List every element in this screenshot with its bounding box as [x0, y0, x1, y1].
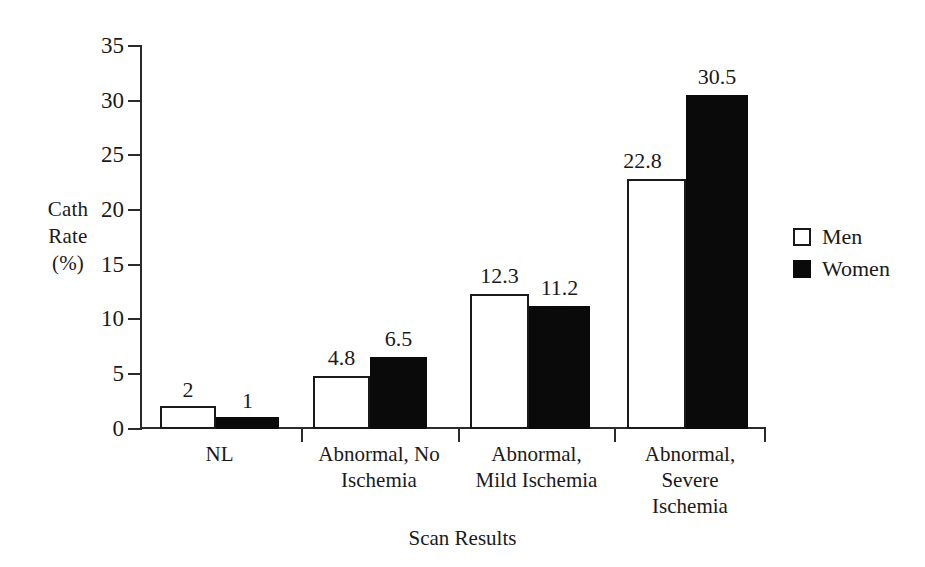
bar-men-abnormal-severe-ischemia[interactable] [627, 179, 686, 429]
x-group-label-abnormal-no-ischemia-line-2: Ischemia [300, 467, 458, 493]
bar-value-men-abnormal-severe-ischemia: 22.8 [613, 150, 672, 172]
x-group-label-nl: NL [152, 441, 287, 467]
y-tick-0 [128, 428, 142, 430]
y-tick-label-0: 0 [70, 417, 124, 440]
x-group-label-abnormal-severe-ischemia-line-3: Ischemia [614, 493, 766, 519]
x-group-label-abnormal-mild-ischemia-line-2: Mild Ischemia [458, 467, 615, 493]
y-tick-label-15: 15 [70, 253, 124, 276]
bar-value-men-abnormal-mild-ischemia: 12.3 [470, 265, 529, 287]
y-tick-10 [128, 318, 142, 320]
bar-women-abnormal-mild-ischemia[interactable] [529, 306, 590, 429]
y-tick-20 [128, 209, 142, 211]
x-axis-title: Scan Results [0, 526, 925, 551]
y-tick-label-5: 5 [70, 362, 124, 385]
filled-square-swatch-icon [793, 260, 811, 278]
bar-women-abnormal-no-ischemia[interactable] [370, 357, 427, 429]
legend-item-women[interactable]: Women [793, 253, 890, 285]
open-square-swatch-icon [793, 228, 811, 246]
x-group-label-abnormal-mild-ischemia-line-1: Abnormal, [458, 441, 615, 467]
bar-value-men-abnormal-no-ischemia: 4.8 [313, 347, 370, 369]
y-axis-title-line-2: Rate [30, 223, 106, 250]
bar-men-abnormal-mild-ischemia[interactable] [470, 294, 529, 429]
bar-women-nl[interactable] [216, 417, 279, 429]
bar-value-women-abnormal-severe-ischemia: 30.5 [686, 66, 748, 88]
legend-label-women: Women [822, 258, 890, 280]
bar-value-men-nl: 2 [160, 379, 216, 401]
bar-men-abnormal-no-ischemia[interactable] [313, 376, 370, 429]
y-tick-label-20: 20 [70, 198, 124, 221]
bar-value-women-abnormal-no-ischemia: 6.5 [370, 328, 427, 350]
y-tick-label-25: 25 [70, 143, 124, 166]
y-tick-label-30: 30 [70, 89, 124, 112]
x-group-label-abnormal-severe-ischemia-line-2: Severe [614, 467, 766, 493]
legend-item-men[interactable]: Men [793, 221, 890, 253]
y-tick-5 [128, 373, 142, 375]
bar-value-women-abnormal-mild-ischemia: 11.2 [529, 277, 590, 299]
x-tick-separator-2 [458, 428, 460, 442]
x-tick-separator-4 [764, 428, 766, 442]
y-axis-line [140, 45, 142, 429]
y-tick-35 [128, 45, 142, 47]
bar-chart-figure: Cath Rate (%) 0 5 10 15 20 25 30 35 2 1 … [0, 0, 925, 567]
bar-men-nl[interactable] [160, 406, 216, 429]
y-tick-25 [128, 154, 142, 156]
x-group-label-abnormal-no-ischemia-line-1: Abnormal, No [300, 441, 458, 467]
legend: Men Women [793, 221, 890, 285]
bar-women-abnormal-severe-ischemia[interactable] [686, 95, 748, 429]
y-tick-label-35: 35 [70, 34, 124, 57]
x-group-label-nl-line-1: NL [152, 441, 287, 467]
x-tick-separator-1 [301, 428, 303, 442]
y-tick-label-10: 10 [70, 307, 124, 330]
x-group-label-abnormal-no-ischemia: Abnormal, No Ischemia [300, 441, 458, 493]
x-group-label-abnormal-severe-ischemia: Abnormal, Severe Ischemia [614, 441, 766, 519]
y-tick-15 [128, 264, 142, 266]
y-tick-30 [128, 100, 142, 102]
x-tick-separator-3 [614, 428, 616, 442]
bar-value-women-nl: 1 [216, 390, 279, 412]
x-group-label-abnormal-mild-ischemia: Abnormal, Mild Ischemia [458, 441, 615, 493]
legend-label-men: Men [822, 226, 862, 248]
x-group-label-abnormal-severe-ischemia-line-1: Abnormal, [614, 441, 766, 467]
